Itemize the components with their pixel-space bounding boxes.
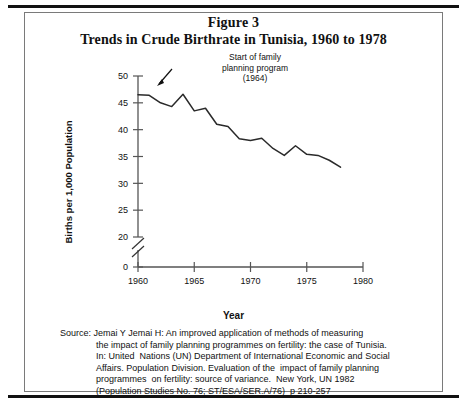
source-line-5: programmes on fertility: source of varia… [60,374,420,386]
data-series-line [138,94,341,167]
source-line-1: Source: Jemai Y Jemai H: An improved app… [60,328,420,340]
y-tick-label: 30 [118,179,128,189]
y-tick-label-zero: 0 [123,262,128,272]
x-tick-label: 1960 [128,276,148,286]
source-line-6: (Population Studies No. 76; ST/ESA/SER.A… [60,386,420,398]
y-tick-label: 20 [118,232,128,242]
source-citation: Source: Jemai Y Jemai H: An improved app… [60,328,420,398]
y-tick-label: 50 [118,71,128,81]
birthrate-line-chart: Births per 1,000 Population 504540353025… [60,52,390,307]
source-line-3: In: United Nations (UN) Department of In… [60,351,420,363]
x-tick-label: 1975 [297,276,317,286]
x-axis-title: Year [0,310,467,321]
annotation-line-1: Start of family [180,52,330,63]
y-tick-label: 45 [118,98,128,108]
chart-annotation: Start of family planning program (1964) [180,52,330,84]
x-tick-label: 1980 [353,276,373,286]
source-line-4: Affairs. Population Division. Evaluation… [60,363,420,375]
figure-root: Figure 3 Trends in Crude Birthrate in Tu… [0,0,467,411]
x-tick-label: 1965 [184,276,204,286]
annotation-arrow-icon [157,69,172,86]
x-tick-label: 1970 [240,276,260,286]
top-rule [8,5,459,8]
annotation-line-3: (1964) [180,73,330,84]
chart-plot-area: Start of family planning program (1964) … [60,52,390,307]
figure-number: Figure 3 [0,14,467,31]
y-tick-label: 25 [118,205,128,215]
figure-title: Figure 3 Trends in Crude Birthrate in Tu… [0,14,467,49]
figure-caption: Trends in Crude Birthrate in Tunisia, 19… [0,31,467,49]
x-axis-ticks: 19601965197019751980 [128,262,373,286]
y-tick-label: 40 [118,125,128,135]
y-axis-title: Births per 1,000 Population [63,120,74,243]
y-tick-label: 35 [118,152,128,162]
annotation-line-2: planning program [180,63,330,74]
source-line-2: the impact of family planning programmes… [60,340,420,352]
